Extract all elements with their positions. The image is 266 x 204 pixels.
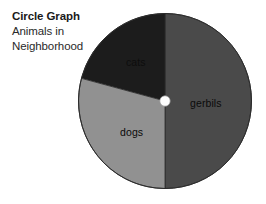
circle-graph-figure: Circle Graph Animals in Neighborhood cat… <box>0 0 266 204</box>
pie-chart <box>78 13 252 189</box>
figure-subtitle-line-2: Neighborhood <box>12 39 104 54</box>
pie-label-cats: cats <box>126 56 146 68</box>
pie-center-dot <box>160 96 170 106</box>
pie-label-dogs: dogs <box>120 126 143 138</box>
pie-chart-svg <box>78 13 252 189</box>
figure-subtitle: Animals in Neighborhood <box>12 24 104 54</box>
figure-caption: Circle Graph Animals in Neighborhood <box>12 9 104 54</box>
figure-title: Circle Graph <box>12 9 104 24</box>
figure-subtitle-line-1: Animals in <box>12 24 104 39</box>
pie-label-gerbils: gerbils <box>190 97 222 109</box>
